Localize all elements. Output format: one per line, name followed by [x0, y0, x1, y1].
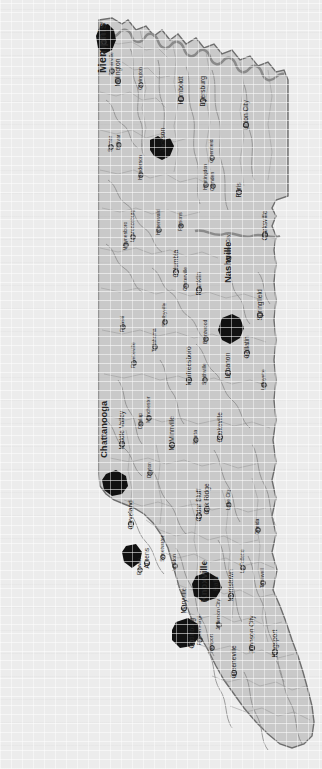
city-franklin[interactable]: Franklin: [195, 272, 202, 296]
city-fayetteville[interactable]: Fayetteville: [130, 342, 136, 368]
city-sweetwater[interactable]: Sweetwater: [159, 535, 165, 562]
city-lawrenceburg[interactable]: Lawrenceburg: [129, 210, 135, 242]
city-huntingdon[interactable]: Huntingdon: [202, 164, 208, 190]
city-label-johnson-city: Johnson City: [248, 615, 256, 654]
city-shelbyville[interactable]: Shelbyville: [161, 302, 167, 327]
city-oneida[interactable]: Oneida: [254, 518, 260, 535]
city-cleveland[interactable]: Cleveland: [127, 500, 134, 530]
city-somerville[interactable]: Somerville: [108, 52, 114, 76]
city-chattanooga[interactable]: Chattanooga: [98, 400, 109, 458]
city-lebanon[interactable]: Lebanon: [224, 353, 231, 379]
city-bartlett[interactable]: Bartlett: [100, 30, 106, 47]
city-label-etowah: Etowah: [136, 558, 142, 575]
city-dyersburg[interactable]: Dyersburg: [199, 76, 207, 107]
city-maryville[interactable]: Maryville: [180, 587, 188, 613]
city-label-covington: Covington: [137, 67, 143, 90]
city-jackson[interactable]: Jackson: [159, 127, 166, 152]
city-label-clarksville: Clarksville: [261, 210, 268, 240]
city-label-oneida: Oneida: [254, 518, 260, 535]
city-label-gallatin: Gallatin: [243, 336, 250, 359]
city-label-morristown: Morristown: [227, 569, 234, 602]
city-henderson[interactable]: Henderson: [137, 155, 143, 180]
city-bolivar[interactable]: Bolivar: [115, 134, 121, 150]
city-gallatin[interactable]: Gallatin: [243, 336, 250, 359]
city-morristown[interactable]: Morristown: [227, 569, 234, 602]
tennessee-map-svg[interactable]: MemphisBartlettMillingtonSomervilleCovin…: [0, 0, 322, 769]
city-pulaski[interactable]: Pulaski: [119, 316, 125, 332]
city-label-camden: Camden: [209, 172, 215, 191]
city-waynesboro[interactable]: Waynesboro: [122, 221, 128, 250]
city-paris[interactable]: Paris: [235, 182, 242, 198]
city-label-mcminnville: McMinnville: [168, 416, 175, 451]
city-label-murfreesboro: Murfreesboro: [185, 346, 192, 386]
city-label-selmer: Selmer: [107, 136, 113, 152]
city-etowah[interactable]: Etowah: [136, 558, 142, 575]
city-label-huntingdon: Huntingdon: [202, 164, 208, 190]
city-hohenwald[interactable]: Hohenwald: [155, 209, 161, 235]
city-athens[interactable]: Athens: [143, 547, 150, 568]
city-label-millington: Millington: [114, 58, 122, 86]
city-la-follette[interactable]: La Follette: [239, 549, 245, 573]
city-nashville[interactable]: Nashville: [222, 242, 233, 283]
city-label-halls: Halls: [212, 576, 219, 591]
city-dunlap[interactable]: Dunlap: [137, 413, 143, 429]
city-centerville[interactable]: Centerville: [182, 267, 188, 291]
city-label-athens: Athens: [143, 547, 150, 568]
city-sparta[interactable]: Sparta: [192, 430, 198, 445]
city-selmer[interactable]: Selmer: [107, 136, 113, 152]
city-label-franklin: Franklin: [195, 272, 202, 296]
city-label-maryville: Maryville: [180, 587, 188, 613]
city-greenfield[interactable]: Greenfield: [208, 139, 214, 163]
city-tullahoma[interactable]: Tullahoma: [151, 328, 157, 352]
city-springfield[interactable]: Springfield: [256, 289, 264, 320]
city-pigeon-forge[interactable]: Pigeon Forge: [196, 614, 202, 645]
city-millington[interactable]: Millington: [114, 58, 122, 86]
city-label-newport: Newport: [208, 633, 214, 653]
city-label-nashville: Nashville: [222, 242, 233, 283]
city-columbia[interactable]: Columbia: [172, 249, 179, 277]
city-loudon[interactable]: Loudon: [171, 554, 177, 571]
city-union-city[interactable]: Union City: [242, 99, 250, 130]
city-kingsport[interactable]: Kingsport: [271, 630, 279, 658]
city-oak-ridge[interactable]: Oak Ridge: [203, 483, 211, 514]
city-label-greeneville: Greeneville: [230, 645, 237, 679]
city-cookeville[interactable]: Cookeville: [216, 412, 223, 443]
city-lake-city[interactable]: Lake City: [225, 488, 231, 510]
city-halls[interactable]: Halls: [212, 576, 219, 591]
city-label-la-follette: La Follette: [239, 549, 245, 573]
city-label-lawrenceburg: Lawrenceburg: [129, 210, 135, 242]
city-label-bolivar: Bolivar: [115, 134, 121, 150]
city-label-tullahoma: Tullahoma: [151, 328, 157, 352]
city-newport[interactable]: Newport: [208, 633, 214, 653]
city-clarksville[interactable]: Clarksville: [261, 210, 268, 240]
city-label-loudon: Loudon: [171, 554, 177, 571]
city-cedar-bluff[interactable]: Cedar Bluff: [195, 489, 202, 522]
city-label-middle-valley: Middle Valley: [118, 410, 126, 449]
city-label-humboldt: Humboldt: [177, 76, 184, 104]
city-brentwood[interactable]: Brentwood: [202, 319, 208, 344]
city-label-knoxville: Knoxville: [198, 560, 209, 602]
city-dayton[interactable]: Dayton: [146, 462, 152, 478]
city-manchester[interactable]: Manchester: [145, 396, 151, 423]
city-label-lafayette: Lafayette: [260, 369, 266, 390]
city-humboldt[interactable]: Humboldt: [177, 76, 184, 104]
city-tazewell[interactable]: Tazewell: [259, 568, 265, 588]
city-murfreesboro[interactable]: Murfreesboro: [185, 346, 192, 386]
city-lafayette[interactable]: Lafayette: [260, 369, 266, 390]
city-middle-valley[interactable]: Middle Valley: [118, 410, 126, 449]
city-label-pigeon-forge: Pigeon Forge: [196, 614, 202, 645]
city-label-lake-city: Lake City: [225, 488, 231, 510]
city-johnson-city[interactable]: Johnson City: [248, 615, 256, 654]
city-covington[interactable]: Covington: [137, 67, 143, 90]
city-label-cookeville: Cookeville: [216, 412, 223, 443]
city-knoxville[interactable]: Knoxville: [198, 560, 209, 602]
city-label-henderson: Henderson: [137, 155, 143, 180]
city-gatlinburg[interactable]: Gatlinburg: [188, 618, 196, 649]
map-canvas[interactable]: MemphisBartlettMillingtonSomervilleCovin…: [0, 0, 322, 769]
city-camden[interactable]: Camden: [209, 172, 215, 191]
city-mcminnville[interactable]: McMinnville: [168, 416, 175, 451]
city-greeneville[interactable]: Greeneville: [230, 645, 237, 679]
city-jefferson-city[interactable]: Jefferson City: [215, 598, 221, 630]
city-parsons[interactable]: Parsons: [177, 212, 183, 231]
city-smithville[interactable]: Smithville: [201, 363, 207, 385]
